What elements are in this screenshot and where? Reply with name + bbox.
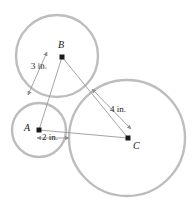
point-C bbox=[126, 136, 131, 141]
point-B bbox=[60, 55, 65, 60]
point-A bbox=[37, 128, 42, 133]
dimension-label-AB: 3 in. bbox=[31, 61, 47, 71]
geometry-canvas bbox=[0, 0, 196, 208]
geometry-figure: A B C 3 in. 4 in. 2 in. bbox=[0, 0, 196, 208]
point-label-A: A bbox=[24, 123, 30, 133]
point-label-C: C bbox=[133, 141, 140, 151]
point-label-B: B bbox=[58, 40, 64, 50]
dimension-arrow-AB bbox=[28, 52, 47, 95]
dimension-label-A-radius: 2 in. bbox=[42, 133, 58, 142]
circle-B bbox=[16, 15, 98, 97]
dimension-label-BC: 4 in. bbox=[110, 105, 126, 114]
